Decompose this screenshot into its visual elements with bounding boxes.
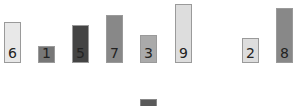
bar-value-label: 1	[39, 45, 54, 61]
bar: 1	[38, 46, 55, 63]
bar: 9	[175, 4, 192, 63]
bar: 5	[72, 25, 89, 63]
bar: 6	[4, 22, 21, 63]
bar-value-label: 5	[73, 45, 88, 61]
bar-value-label: 7	[107, 45, 122, 61]
bar: 7	[106, 15, 123, 63]
legend-swatch	[140, 99, 157, 106]
bar: 3	[140, 35, 157, 63]
bar-value-label: 2	[243, 45, 258, 61]
bar-value-label: 8	[277, 45, 292, 61]
bar: 2	[242, 38, 259, 63]
bar-value-label: 9	[176, 45, 191, 61]
bar-value-label: 3	[141, 45, 156, 61]
bar-value-label: 6	[5, 45, 20, 61]
bar: 8	[276, 8, 293, 63]
